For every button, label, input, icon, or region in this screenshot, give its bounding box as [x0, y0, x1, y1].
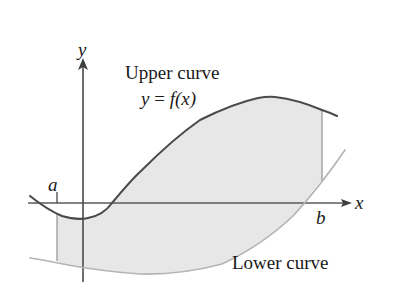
upper-curve-caption: Upper curve: [125, 63, 219, 82]
equation-rhs: f(x): [170, 88, 196, 109]
figure-area-between-curves: y x a b Upper curve y = f(x) Lower curve: [0, 0, 419, 282]
upper-bound-label-b: b: [316, 208, 326, 227]
lower-bound-label-a: a: [48, 175, 58, 194]
lower-curve-caption: Lower curve: [232, 253, 329, 272]
upper-curve-equation: y = f(x): [141, 89, 196, 108]
figure-canvas: [0, 0, 419, 282]
x-axis-label: x: [355, 193, 363, 212]
equation-operator: =: [149, 88, 169, 109]
shaded-area-between-curves: [57, 97, 322, 274]
y-axis-label: y: [78, 40, 86, 59]
